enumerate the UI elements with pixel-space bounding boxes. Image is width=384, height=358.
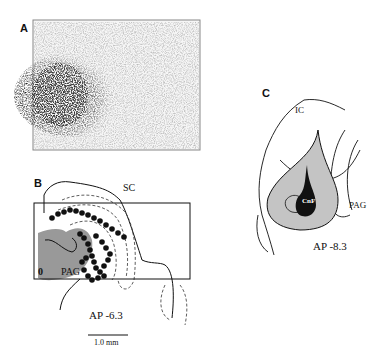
- panel-c-diagram: [257, 99, 360, 255]
- ap-label-c: AP -8.3: [313, 240, 347, 252]
- cell-dot: [99, 239, 105, 245]
- cell-dot: [61, 209, 67, 215]
- cell-dot: [107, 251, 113, 257]
- cell-dot: [81, 235, 87, 241]
- cell-dot: [85, 212, 91, 218]
- cell-dot: [79, 259, 85, 265]
- cnf-label: CnF: [302, 197, 315, 205]
- cell-dot: [91, 215, 97, 221]
- cell-dot: [97, 269, 103, 275]
- pag-label-b: PAG: [61, 266, 80, 277]
- cell-dot: [105, 257, 111, 263]
- cell-dot: [89, 277, 95, 283]
- cell-dot: [95, 275, 101, 281]
- cell-dot: [77, 231, 83, 237]
- cell-dot: [83, 255, 89, 261]
- cell-dot: [93, 233, 99, 239]
- ap-label-b: AP -6.3: [89, 309, 123, 321]
- cell-dot: [93, 265, 99, 271]
- cell-dot: [55, 211, 61, 217]
- cell-dot: [85, 241, 91, 247]
- figure-canvas: [0, 0, 384, 358]
- cell-dot: [121, 234, 127, 240]
- cell-dot: [67, 207, 73, 213]
- cell-dot: [103, 245, 109, 251]
- cell-dot: [81, 267, 87, 273]
- cell-dot: [49, 215, 55, 221]
- marker-zero: 0: [38, 266, 43, 277]
- cell-dot: [85, 273, 91, 279]
- cell-dot: [87, 247, 93, 253]
- scale-bar-label: 1.0 mm: [94, 338, 118, 347]
- cell-dot: [73, 208, 79, 214]
- panel-a-micrograph: [14, 20, 200, 150]
- cell-dot: [91, 259, 97, 265]
- cell-dot: [89, 253, 95, 259]
- cell-dot: [101, 263, 107, 269]
- pag-label-c: PAG: [349, 200, 366, 210]
- cell-dot: [115, 230, 121, 236]
- sc-label: SC: [123, 182, 135, 193]
- cell-dot: [97, 218, 103, 224]
- cell-dot: [109, 226, 115, 232]
- cell-dot: [79, 210, 85, 216]
- cell-dot: [101, 273, 107, 279]
- cell-dot: [103, 222, 109, 228]
- ic-label: IC: [295, 105, 304, 115]
